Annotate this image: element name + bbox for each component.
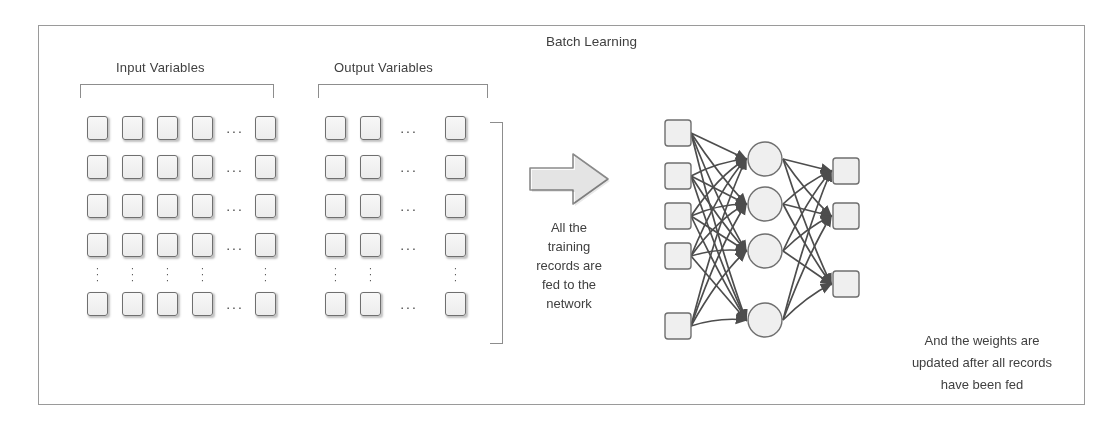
network-nodes bbox=[665, 120, 859, 339]
input-variable-row-ellipsis: ... bbox=[222, 233, 248, 257]
output-variable-row-ellipsis: ... bbox=[396, 116, 422, 140]
network-output-node bbox=[833, 203, 859, 229]
flow-arrow-icon bbox=[527, 150, 611, 208]
output-variable-cell bbox=[325, 194, 346, 218]
input-variable-cell bbox=[255, 233, 276, 257]
network-edge bbox=[691, 319, 746, 326]
output-variable-row-ellipsis: ... bbox=[396, 292, 422, 316]
input-variable-row-ellipsis: ... bbox=[222, 292, 248, 316]
neural-network-graphic bbox=[655, 95, 905, 355]
output-variable-cell bbox=[445, 116, 466, 140]
output-variable-cell bbox=[360, 292, 381, 316]
records-group-bracket bbox=[490, 122, 503, 344]
output-variable-cell bbox=[325, 292, 346, 316]
output-variable-cell bbox=[445, 233, 466, 257]
input-variable-cell bbox=[122, 116, 143, 140]
input-variable-cell bbox=[255, 155, 276, 179]
diagram-canvas: Batch Learning Input Variables Output Va… bbox=[0, 0, 1118, 429]
middle-caption-line: fed to the bbox=[520, 275, 618, 294]
diagram-title: Batch Learning bbox=[0, 34, 1118, 49]
input-variable-cell bbox=[192, 155, 213, 179]
output-variable-cell bbox=[325, 116, 346, 140]
output-variable-row-ellipsis: ... bbox=[396, 155, 422, 179]
network-hidden-node bbox=[748, 303, 782, 337]
network-output-node bbox=[833, 158, 859, 184]
input-variable-cell bbox=[87, 155, 108, 179]
input-variable-cell bbox=[122, 292, 143, 316]
network-input-node bbox=[665, 163, 691, 189]
diagram-title-text: Batch Learning bbox=[546, 34, 637, 49]
network-hidden-node bbox=[748, 234, 782, 268]
output-variable-cell bbox=[360, 116, 381, 140]
output-variable-cell bbox=[325, 233, 346, 257]
input-variable-cell bbox=[87, 233, 108, 257]
output-variables-bracket bbox=[318, 84, 488, 98]
output-variable-cell bbox=[360, 155, 381, 179]
output-variable-cell bbox=[360, 233, 381, 257]
middle-caption-line: network bbox=[520, 294, 618, 313]
input-variable-cell bbox=[192, 116, 213, 140]
input-variable-cell bbox=[122, 233, 143, 257]
input-variable-column-ellipsis: ··· bbox=[157, 266, 178, 284]
input-variable-column-ellipsis: ··· bbox=[87, 266, 108, 284]
output-variable-column-ellipsis: ··· bbox=[360, 266, 381, 284]
network-input-node bbox=[665, 243, 691, 269]
input-variable-cell bbox=[87, 194, 108, 218]
middle-caption-line: records are bbox=[520, 256, 618, 275]
input-variable-column-ellipsis: ··· bbox=[192, 266, 213, 284]
network-output-node bbox=[833, 271, 859, 297]
output-variable-cell bbox=[445, 194, 466, 218]
input-variable-cell bbox=[157, 116, 178, 140]
right-caption: And the weights areupdated after all rec… bbox=[862, 330, 1102, 396]
input-variable-cell bbox=[122, 194, 143, 218]
network-input-node bbox=[665, 120, 691, 146]
middle-caption-line: All the bbox=[520, 218, 618, 237]
output-variable-row-ellipsis: ... bbox=[396, 233, 422, 257]
right-caption-line: updated after all records bbox=[862, 352, 1102, 374]
output-variable-column-ellipsis: ··· bbox=[325, 266, 346, 284]
input-variables-bracket bbox=[80, 84, 274, 98]
input-variable-column-ellipsis: ··· bbox=[255, 266, 276, 284]
network-edge bbox=[783, 159, 831, 284]
input-variable-row-ellipsis: ... bbox=[222, 194, 248, 218]
input-variable-cell bbox=[157, 292, 178, 316]
right-caption-line: have been fed bbox=[862, 374, 1102, 396]
middle-caption-line: training bbox=[520, 237, 618, 256]
output-variable-cell bbox=[445, 155, 466, 179]
output-variable-cell bbox=[445, 292, 466, 316]
input-variable-row-ellipsis: ... bbox=[222, 155, 248, 179]
input-variable-cell bbox=[122, 155, 143, 179]
output-variable-row-ellipsis: ... bbox=[396, 194, 422, 218]
output-variable-cell bbox=[325, 155, 346, 179]
middle-caption: All thetrainingrecords arefed to thenetw… bbox=[520, 218, 618, 313]
input-variable-cell bbox=[192, 233, 213, 257]
input-variable-cell bbox=[157, 233, 178, 257]
input-variable-cell bbox=[255, 116, 276, 140]
output-variables-label: Output Variables bbox=[334, 60, 433, 75]
network-input-node bbox=[665, 313, 691, 339]
input-variable-cell bbox=[192, 292, 213, 316]
network-input-node bbox=[665, 203, 691, 229]
input-variable-column-ellipsis: ··· bbox=[122, 266, 143, 284]
input-variable-cell bbox=[192, 194, 213, 218]
input-variables-label: Input Variables bbox=[116, 60, 205, 75]
input-variable-row-ellipsis: ... bbox=[222, 116, 248, 140]
network-hidden-node bbox=[748, 187, 782, 221]
output-variable-cell bbox=[360, 194, 381, 218]
input-variable-cell bbox=[255, 292, 276, 316]
input-variable-cell bbox=[87, 116, 108, 140]
network-hidden-node bbox=[748, 142, 782, 176]
right-caption-line: And the weights are bbox=[862, 330, 1102, 352]
input-variable-cell bbox=[157, 155, 178, 179]
input-variable-cell bbox=[157, 194, 178, 218]
input-variable-cell bbox=[87, 292, 108, 316]
input-variable-cell bbox=[255, 194, 276, 218]
output-variable-column-ellipsis: ··· bbox=[445, 266, 466, 284]
